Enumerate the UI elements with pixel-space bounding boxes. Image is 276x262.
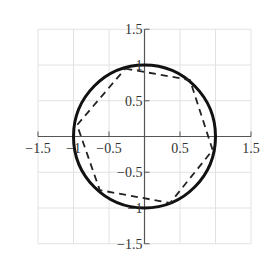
y-tick-label: 1.5 [125,22,143,37]
axes [38,29,251,244]
y-tick-label: −1.5 [117,237,142,252]
x-tick-label: −1.5 [25,141,50,156]
y-tick-label: −1 [128,201,143,216]
y-tick-label: −0.5 [117,165,142,180]
chart-canvas: −1.5−1−0.50.51.51.510.5−0.5−1−1.5 [0,0,276,262]
x-tick-label: 0.5 [171,141,189,156]
y-tick-label: 0.5 [125,94,143,109]
x-tick-label: −0.5 [96,141,121,156]
y-tick-label: 1 [136,58,143,73]
x-tick-label: −1 [66,141,81,156]
x-tick-label: 1.5 [242,141,260,156]
